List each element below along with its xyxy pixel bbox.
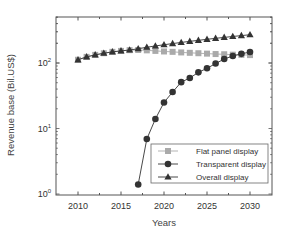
x-tick-label: 2015 — [111, 201, 131, 211]
y-tick-label: 100 — [38, 188, 52, 199]
legend-label: Transparent display — [196, 160, 266, 169]
x-axis-label: Years — [152, 217, 176, 228]
chart: 20102015202020252030 100101102 Years Rev… — [0, 0, 288, 238]
x-tick-label: 2030 — [240, 201, 260, 211]
legend: Flat panel displayTransparent displayOve… — [151, 144, 268, 183]
y-tick-label: 101 — [38, 123, 52, 134]
y-tick-label: 102 — [38, 57, 52, 68]
legend-label: Overall display — [196, 173, 248, 182]
x-tick-label: 2010 — [68, 201, 88, 211]
x-tick-label: 2020 — [154, 201, 174, 211]
y-axis-label: Revenue base (Bil.US$) — [5, 54, 16, 156]
legend-label: Flat panel display — [196, 147, 258, 156]
x-tick-label: 2025 — [197, 201, 217, 211]
